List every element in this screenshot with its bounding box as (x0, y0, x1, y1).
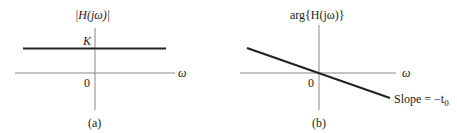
a-caption: (a) (88, 117, 101, 129)
b-xlabel: ω (402, 67, 410, 79)
a-ylabel: |H(jω)| (75, 9, 110, 21)
b-caption: (b) (312, 117, 326, 129)
b-origin-label: 0 (308, 77, 314, 89)
a-level-label: K (83, 35, 91, 47)
b-ylabel: arg{H(jω)} (290, 9, 345, 21)
a-xlabel: ω (178, 67, 186, 79)
diagram-canvas (0, 0, 457, 133)
b-slope-label: Slope = −t0 (394, 93, 449, 108)
a-origin-label: 0 (84, 77, 90, 89)
